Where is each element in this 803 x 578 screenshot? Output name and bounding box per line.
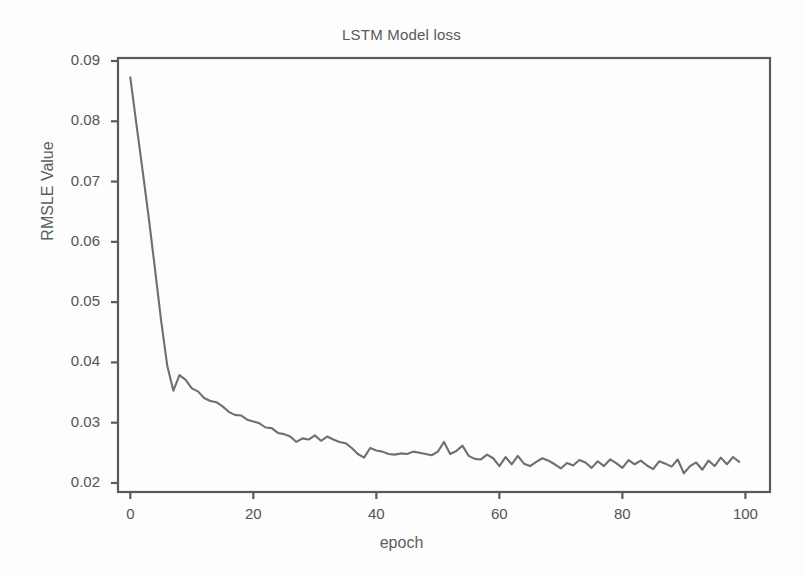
plot-frame (118, 58, 770, 492)
axis-ticks (111, 61, 745, 499)
x-axis-title: epoch (0, 534, 803, 552)
y-axis-title: RMSLE Value (39, 101, 57, 281)
loss-line-series (130, 77, 739, 473)
x-tick-label: 20 (223, 505, 283, 522)
y-tick-label: 0.05 (36, 292, 100, 309)
y-tick-label: 0.02 (36, 473, 100, 490)
y-tick-label: 0.04 (36, 352, 100, 369)
x-tick-label: 60 (469, 505, 529, 522)
x-tick-label: 100 (715, 505, 775, 522)
y-tick-label: 0.09 (36, 51, 100, 68)
chart-page: LSTM Model loss 0.020.030.040.050.060.07… (0, 0, 803, 578)
y-tick-label: 0.03 (36, 413, 100, 430)
x-tick-label: 40 (346, 505, 406, 522)
x-tick-label: 0 (100, 505, 160, 522)
x-tick-label: 80 (592, 505, 652, 522)
plot-area (0, 0, 803, 578)
